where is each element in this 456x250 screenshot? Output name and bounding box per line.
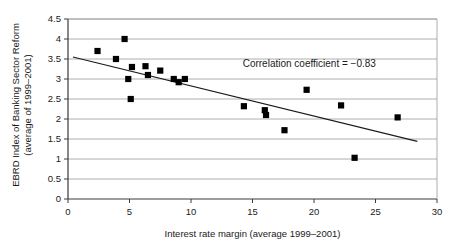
x-axis-ticks: 051015202530: [65, 199, 442, 217]
data-point-marker: [263, 112, 269, 118]
y-tick-label: 0.5: [48, 173, 61, 184]
y-tick-label: 4.5: [48, 13, 61, 24]
data-point-marker: [281, 127, 287, 133]
data-point-marker: [351, 155, 357, 161]
y-tick-label: 4: [56, 33, 61, 44]
data-points: [94, 36, 400, 161]
y-tick-label: 0: [56, 193, 61, 204]
data-point-marker: [142, 63, 148, 69]
y-tick-label: 1.5: [48, 133, 61, 144]
data-point-marker: [157, 68, 163, 74]
data-point-marker: [121, 36, 127, 42]
data-point-marker: [304, 87, 310, 93]
correlation-annotation: Correlation coefficient = −0.83: [243, 58, 377, 69]
plot-canvas: 00.511.522.533.544.5 051015202530 Correl…: [0, 0, 456, 250]
y-tick-label: 2.5: [48, 93, 61, 104]
y-tick-label: 1: [56, 153, 61, 164]
data-point-marker: [241, 103, 247, 109]
data-point-marker: [176, 79, 182, 85]
x-tick-label: 5: [127, 206, 132, 217]
x-axis-label: Interest rate margin (average 1999–2001): [68, 228, 437, 239]
x-tick-label: 20: [309, 206, 320, 217]
data-point-marker: [128, 96, 134, 102]
data-point-marker: [113, 56, 119, 62]
x-tick-label: 30: [432, 206, 443, 217]
y-axis-ticks: 00.511.522.533.544.5: [48, 13, 68, 204]
data-point-marker: [338, 102, 344, 108]
gridlines: [68, 19, 437, 179]
y-tick-label: 2: [56, 113, 61, 124]
data-point-marker: [182, 76, 188, 82]
data-point-marker: [129, 64, 135, 70]
scatter-chart-figure: EBRD Index of Banking Sector Reform (ave…: [0, 0, 456, 250]
x-tick-label: 25: [370, 206, 381, 217]
x-tick-label: 15: [247, 206, 258, 217]
y-tick-label: 3.5: [48, 53, 61, 64]
data-point-marker: [395, 114, 401, 120]
axis-frame: [68, 19, 437, 199]
x-tick-label: 0: [65, 206, 70, 217]
x-tick-label: 10: [186, 206, 197, 217]
y-tick-label: 3: [56, 73, 61, 84]
data-point-marker: [94, 48, 100, 54]
data-point-marker: [125, 76, 131, 82]
data-point-marker: [145, 72, 151, 78]
